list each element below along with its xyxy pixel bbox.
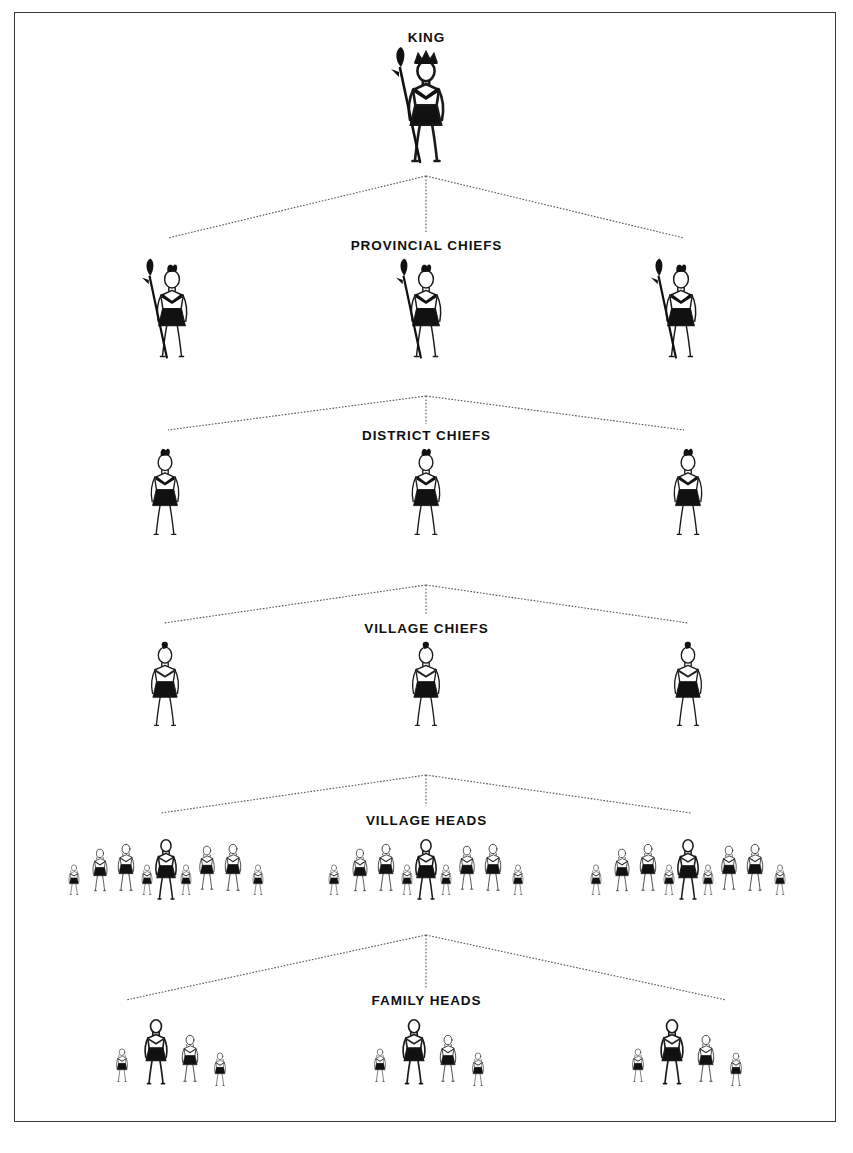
level-label-district-chiefs: DISTRICT CHIEFS [0, 428, 853, 443]
level-label-village-chiefs: VILLAGE CHIEFS [0, 621, 853, 636]
level-label-family-heads: FAMILY HEADS [0, 993, 853, 1008]
level-label-provincial-chiefs: PROVINCIAL CHIEFS [0, 238, 853, 253]
hierarchy-diagram: KINGPROVINCIAL CHIEFSDISTRICT CHIEFSVILL… [0, 0, 853, 1153]
level-label-king: KING [0, 30, 853, 45]
level-label-village-heads: VILLAGE HEADS [0, 813, 853, 828]
diagram-frame [14, 12, 836, 1122]
